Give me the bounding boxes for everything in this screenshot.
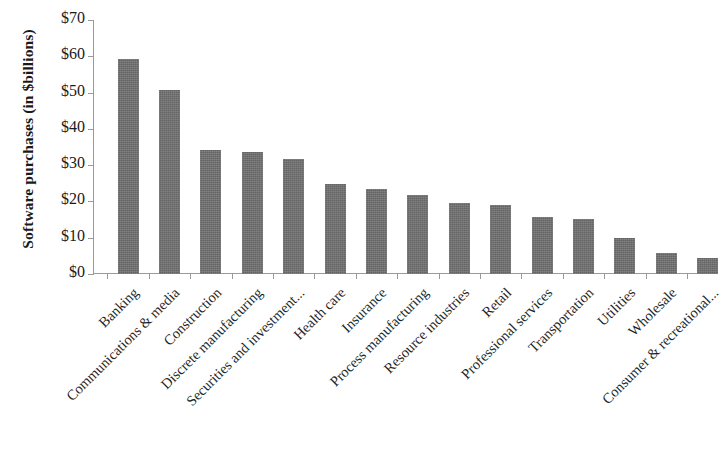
bar [366,189,387,274]
x-category-label: Professional services [121,285,556,464]
bar [325,184,346,274]
x-tick-mark [190,273,191,279]
y-tick-label: $70 [31,9,85,27]
x-tick-mark [149,273,150,279]
x-category-label: Construction [0,285,224,464]
y-tick-mark [88,129,94,130]
x-category-label: Discrete manufacturing [0,285,265,464]
x-category-label: Insurance [0,285,390,464]
y-tick-mark [88,56,94,57]
y-tick-label: $10 [31,227,85,245]
x-tick-mark [397,273,398,279]
x-tick-mark [273,273,274,279]
bar [200,150,221,274]
x-category-label: Health care [0,285,348,464]
x-tick-mark [521,273,522,279]
x-category-label: Banking [0,285,141,464]
bar [532,217,553,274]
bar [159,90,180,274]
bar [656,253,677,274]
x-tick-mark [563,273,564,279]
y-tick-label: $60 [31,45,85,63]
x-tick-mark [480,273,481,279]
plot-area: $0$10$20$30$40$50$60$70 [93,20,715,274]
y-tick-mark [88,238,94,239]
x-category-label: Consumer & recreational... [286,285,721,464]
x-tick-mark [604,273,605,279]
x-category-label: Retail [79,285,514,464]
bar [573,219,594,274]
y-tick-label: $40 [31,118,85,136]
y-tick-label: $30 [31,154,85,172]
bar [283,159,304,274]
x-tick-mark [314,273,315,279]
bar [449,203,470,274]
x-category-label: Securities and investment... [0,285,307,464]
bar [697,258,718,274]
bar [490,205,511,274]
bar-chart: Software purchases (in $billions) $0$10$… [0,0,725,464]
y-tick-mark [88,201,94,202]
x-tick-mark [232,273,233,279]
x-category-label: Utilities [203,285,638,464]
y-tick-mark [88,93,94,94]
x-tick-mark [107,273,108,279]
x-tick-mark [646,273,647,279]
x-category-label: Resource industries [38,285,473,464]
bar [614,238,635,274]
x-tick-mark [687,273,688,279]
x-category-label: Transportation [162,285,597,464]
x-category-label: Wholesale [245,285,680,464]
x-tick-mark [356,273,357,279]
x-category-label: Process manufacturing [0,285,431,464]
y-tick-label: $0 [31,263,85,281]
bar [407,195,428,274]
y-axis-line [93,20,94,274]
bar [118,59,139,274]
x-category-label: Communications & media [0,285,183,464]
bar [242,152,263,274]
y-tick-mark [88,165,94,166]
y-tick-label: $50 [31,82,85,100]
y-tick-mark [88,20,94,21]
y-tick-mark [88,274,94,275]
x-tick-mark [439,273,440,279]
y-tick-label: $20 [31,190,85,208]
